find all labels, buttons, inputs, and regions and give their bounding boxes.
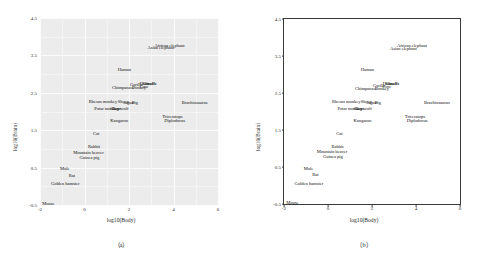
data-point-label: Guinea pig: [323, 155, 343, 160]
x-tick-label: 2: [371, 206, 374, 211]
panel-caption-a: （a）: [0, 240, 242, 249]
x-tick-label: 0: [327, 206, 330, 211]
x-tick-label: 4: [415, 206, 418, 211]
y-tick-label: 1.5: [31, 128, 37, 133]
y-tick-label: 3.5: [275, 54, 281, 59]
data-point-label: Asian elephant: [390, 47, 417, 52]
x-tick-label: 6: [217, 207, 220, 212]
data-point-label: Golden hamster: [295, 181, 324, 186]
gridline-horizontal-minor: [40, 112, 218, 113]
x-tick-label: 0: [83, 207, 86, 212]
data-point-label: Rhesus monkey: [332, 100, 361, 105]
plot-area-b: -0.50.51.52.53.54.5-20246African elephan…: [283, 18, 461, 205]
gridline-horizontal: [40, 55, 218, 56]
x-axis-label-a: log10(Body): [0, 217, 242, 223]
data-point-label: Mole: [304, 167, 314, 172]
x-tick-mark: [460, 204, 461, 207]
data-point-label: Rhesus monkey: [89, 99, 118, 104]
x-tick-label: -2: [282, 206, 286, 211]
y-tick-mark: [282, 130, 285, 131]
y-tick-label: 1.5: [275, 128, 281, 133]
data-point-label: Jaguar: [123, 100, 135, 105]
data-point-label: Brachiosaurus: [424, 101, 450, 106]
x-tick-label: 4: [172, 207, 175, 212]
gridline-vertical: [218, 18, 219, 205]
data-point-label: Rat: [69, 174, 75, 179]
y-tick-label: 4.5: [31, 16, 37, 21]
y-tick-label: 2.5: [31, 90, 37, 95]
data-point-label: Jaguar: [366, 100, 378, 105]
data-point-label: Human: [118, 67, 131, 72]
data-point-label: Kangaroo: [353, 118, 371, 123]
gridline-horizontal: [40, 18, 218, 19]
gridline-horizontal: [40, 130, 218, 131]
y-axis-label-a: log10(Brain): [12, 123, 18, 151]
gridline-horizontal: [40, 205, 218, 206]
x-tick-mark: [328, 204, 329, 207]
data-point-label: Guinea pig: [79, 156, 99, 161]
y-tick-label: 3.5: [31, 53, 37, 58]
y-tick-label: 0.5: [31, 165, 37, 170]
y-tick-mark: [282, 167, 285, 168]
data-point-label: Grey wolf: [353, 106, 371, 111]
y-tick-mark: [282, 93, 285, 94]
y-tick-label: 0.5: [275, 165, 281, 170]
gridline-horizontal-minor: [40, 149, 218, 150]
data-point-label: Rat: [312, 173, 318, 178]
data-point-label: Gorilla: [373, 83, 386, 88]
gridline-horizontal: [40, 93, 218, 94]
y-tick-label: 4.5: [275, 17, 281, 22]
data-point-label: Cat: [336, 131, 342, 136]
data-point-label: Diplodocus: [164, 119, 185, 124]
data-point-label: Golden hamster: [51, 182, 80, 187]
x-tick-mark: [372, 204, 373, 207]
x-tick-mark: [416, 204, 417, 207]
y-tick-label: -0.5: [273, 202, 281, 207]
y-tick-label: 2.5: [275, 91, 281, 96]
data-point-label: Grey wolf: [110, 106, 128, 111]
x-axis-label-b: log10(Body): [243, 217, 485, 223]
figure-container: log10(Brain) -0.50.51.52.53.54.5-20246Af…: [0, 0, 485, 274]
data-point-label: Asian elephant: [147, 46, 174, 51]
x-tick-label: 2: [128, 207, 131, 212]
y-tick-mark: [282, 19, 285, 20]
panel-caption-b: （b）: [243, 240, 485, 249]
data-point-label: Brachiosaurus: [182, 101, 208, 106]
x-tick-label: -2: [38, 207, 42, 212]
data-point-label: Human: [361, 68, 374, 73]
gridline-horizontal-minor: [40, 74, 218, 75]
data-point-label: Kangaroo: [110, 119, 128, 124]
panel-b: log10(Brain) -0.50.51.52.53.54.5-20246Af…: [243, 0, 485, 274]
data-point-label: Mole: [60, 167, 70, 172]
x-tick-mark: [284, 204, 285, 207]
data-point-label: Mouse: [286, 200, 298, 205]
plot-area-a: -0.50.51.52.53.54.5-20246African elephan…: [40, 18, 218, 205]
y-axis-label-b: log10(Brain): [255, 123, 261, 151]
gridline-horizontal-minor: [40, 37, 218, 38]
y-tick-mark: [282, 56, 285, 57]
data-point-label: Gorilla: [130, 83, 143, 88]
data-point-label: Cat: [93, 132, 99, 137]
panel-a: log10(Brain) -0.50.51.52.53.54.5-20246Af…: [0, 0, 242, 274]
data-point-label: Diplodocus: [407, 119, 428, 124]
data-point-label: Mouse: [42, 201, 54, 206]
x-tick-label: 6: [459, 206, 462, 211]
y-tick-label: -0.5: [29, 203, 37, 208]
